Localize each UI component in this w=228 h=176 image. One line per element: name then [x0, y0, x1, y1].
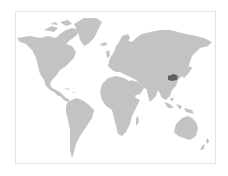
uk	[106, 50, 110, 58]
madagascar	[136, 116, 139, 126]
southeast-asia-islands	[164, 98, 194, 114]
caribbean	[64, 88, 75, 93]
australia	[174, 116, 198, 140]
north-america	[17, 28, 80, 96]
greenland	[74, 18, 102, 46]
south-america	[66, 98, 94, 158]
new-zealand	[200, 138, 209, 150]
iceland	[100, 42, 107, 46]
world-map	[0, 0, 228, 176]
